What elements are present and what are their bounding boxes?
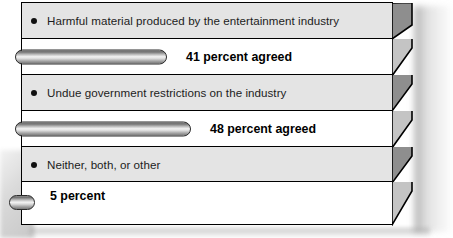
- category-label: Neither, both, or other: [47, 158, 160, 171]
- bar-value-label: 48 percent agreed: [210, 122, 316, 136]
- bullet-dot-icon: [31, 18, 37, 24]
- row-side-face: [392, 147, 412, 182]
- bar-value-label: 41 percent agreed: [186, 50, 292, 64]
- drop-shadow-right: [414, 6, 453, 232]
- background-shading-bottom: [30, 228, 430, 238]
- bar-track: [22, 182, 42, 224]
- chart-row-bar: 48 percent agreed: [21, 110, 393, 148]
- bar-track: [22, 111, 198, 147]
- bar-fill-48: [15, 121, 191, 136]
- row-side-face: [392, 182, 412, 224]
- category-label: Undue government restrictions on the ind…: [47, 86, 286, 99]
- chart-row-label: Harmful material produced by the enterta…: [21, 2, 393, 39]
- row-side-face: [392, 39, 412, 75]
- row-side-face: [392, 75, 412, 110]
- chart-row-label: Undue government restrictions on the ind…: [21, 74, 393, 111]
- chart-row-bar: 5 percent: [21, 181, 393, 225]
- row-side-face: [392, 111, 412, 147]
- chart-row-bar: 41 percent agreed: [21, 38, 393, 76]
- chart-row-label: Neither, both, or other: [21, 146, 393, 183]
- row-side-face: [392, 3, 412, 38]
- bar-value-label: 5 percent: [50, 189, 105, 203]
- bullet-dot-icon: [31, 162, 37, 168]
- bar-fill-41: [15, 49, 167, 64]
- bar-track: [22, 39, 174, 75]
- chart-figure: Harmful material produced by the enterta…: [0, 0, 453, 238]
- stacked-bar-chart: Harmful material produced by the enterta…: [21, 4, 413, 225]
- bar-fill-5: [9, 195, 35, 210]
- category-label: Harmful material produced by the enterta…: [47, 14, 339, 27]
- bullet-dot-icon: [31, 90, 37, 96]
